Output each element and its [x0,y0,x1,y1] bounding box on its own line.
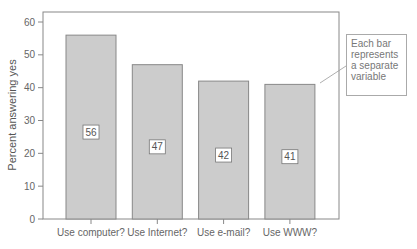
x-category-label: Use computer? [57,227,125,238]
value-label: 47 [152,141,164,152]
bar-2: 47 [132,65,182,219]
x-category-label: Use e-mail? [197,227,251,238]
y-tick-label: 10 [24,181,36,192]
callout-line-1: Each bar [351,38,402,49]
y-tick-label: 40 [24,82,36,93]
value-label: 41 [284,151,296,162]
annotation-callout: Each bar represents a separate variable [346,34,407,96]
value-label: 42 [218,150,230,161]
y-tick-label: 30 [24,115,36,126]
y-tick-label: 50 [24,49,36,60]
bar-3: 42 [199,81,249,219]
y-tick-label: 0 [29,214,35,225]
x-axis: Use computer?Use Internet?Use e-mail?Use… [57,219,317,238]
callout-line-2: represents [351,49,402,60]
x-category-label: Use WWW? [263,227,318,238]
callout-line-4: variable [351,71,402,82]
y-axis: 0102030405060 [24,17,43,225]
bar-4: 41 [265,84,315,219]
value-label: 56 [85,127,97,138]
x-category-label: Use Internet? [127,227,187,238]
y-axis-title: Percent answering yes [6,59,18,171]
y-tick-label: 20 [24,148,36,159]
y-tick-label: 60 [24,17,36,28]
bar-1: 56 [66,35,116,219]
callout-line-3: a separate [351,60,402,71]
